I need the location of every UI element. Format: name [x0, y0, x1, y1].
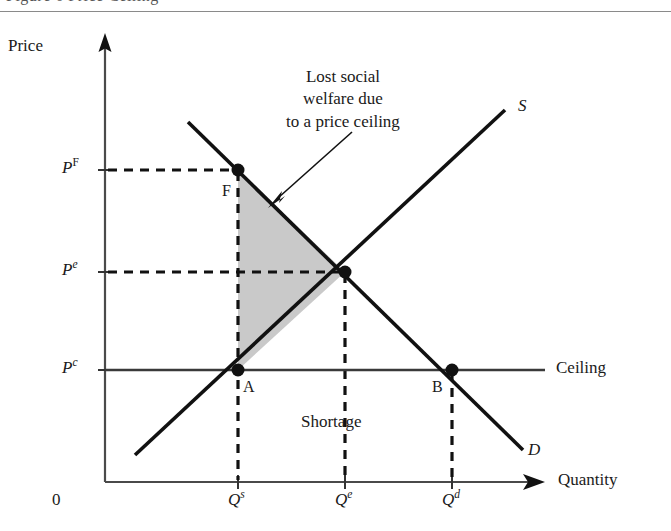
x-tick-qs-sup: s — [240, 488, 245, 501]
x-tick-qe-sup: e — [347, 488, 352, 501]
lost-welfare-line-1: Lost social — [248, 66, 438, 88]
supply-curve-label: S — [518, 96, 527, 116]
x-tick-label-qe: Qe — [335, 490, 352, 510]
ceiling-line-label: Ceiling — [556, 358, 606, 378]
point-marker-f — [232, 164, 245, 177]
y-tick-label-pe: Pe — [62, 260, 78, 280]
origin-label: 0 — [52, 490, 61, 510]
point-marker-a — [232, 364, 245, 377]
point-label-f: F — [222, 182, 231, 200]
y-tick-pf-sup: F — [72, 156, 78, 169]
y-axis — [99, 33, 112, 482]
lost-welfare-line-3: to a price ceiling — [248, 111, 438, 133]
figure-container: Figure 6 Price Ceiling — [0, 0, 671, 531]
lost-welfare-arrow — [268, 132, 352, 208]
point-marker-equilibrium — [339, 266, 352, 279]
x-tick-qs-base: Q — [228, 490, 240, 509]
supply-curve — [135, 110, 505, 455]
x-tick-label-qs: Qs — [228, 490, 245, 510]
demand-curve-label: D — [528, 440, 540, 460]
x-tick-qd-base: Q — [442, 490, 454, 509]
x-axis-label: Quantity — [558, 470, 618, 490]
point-label-a: A — [243, 378, 255, 396]
x-tick-qd-sup: d — [454, 488, 460, 501]
y-tick-pf-base: P — [62, 158, 72, 177]
y-axis-label: Price — [8, 36, 43, 56]
x-tick-qe-base: Q — [335, 490, 347, 509]
y-tick-pc-base: P — [62, 358, 72, 377]
y-tick-pe-base: P — [62, 260, 72, 279]
y-tick-label-pf: PF — [62, 158, 79, 178]
y-tick-label-pc: Pc — [62, 358, 78, 378]
lost-welfare-annotation: Lost social welfare due to a price ceili… — [248, 66, 438, 133]
shortage-label: Shortage — [301, 412, 361, 432]
point-marker-b — [446, 364, 459, 377]
y-tick-pe-sup: e — [72, 258, 77, 271]
point-label-b: B — [432, 378, 443, 396]
x-axis — [105, 474, 545, 490]
y-tick-pc-sup: c — [72, 356, 77, 369]
lost-welfare-line-2: welfare due — [248, 88, 438, 110]
deadweight-loss-triangle — [238, 170, 345, 370]
x-tick-label-qd: Qd — [442, 490, 460, 510]
